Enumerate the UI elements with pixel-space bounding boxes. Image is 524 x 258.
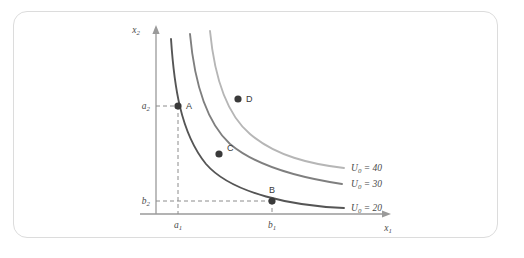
indifference-curve-u20 [171,39,344,208]
indifference-curve-chart: x2 x1 A B C D a2 b2 a1 b1 [14,12,497,237]
y-axis-arrow-icon [152,25,159,34]
y-tick-label-b2: b2 [142,196,151,207]
data-point-b-label: B [269,185,275,195]
figure-frame: x2 x1 A B C D a2 b2 a1 b1 [13,11,498,238]
data-point-b-marker[interactable] [268,197,275,204]
data-point-c-marker[interactable] [215,150,222,157]
x-tick-label-a1: a1 [174,220,182,231]
x-axis-label: x1 [383,223,392,234]
data-point-a-label: A [186,101,192,111]
curve-label-u40: U0 = 40 [351,163,382,174]
x-tick-label-b1: b1 [268,220,276,231]
y-axis-label: x2 [131,25,140,36]
guides-point-b [156,201,272,214]
curve-label-u20: U0 = 20 [351,203,382,214]
x-axis-arrow-icon [382,210,391,217]
data-point-c-label: C [227,143,234,153]
guides-point-a [156,106,178,214]
y-tick-label-a2: a2 [142,101,151,112]
data-point-d-label: D [246,94,253,104]
curve-label-u30: U0 = 30 [351,179,382,190]
data-point-a-marker[interactable] [174,102,181,109]
data-point-d-marker[interactable] [234,95,241,102]
